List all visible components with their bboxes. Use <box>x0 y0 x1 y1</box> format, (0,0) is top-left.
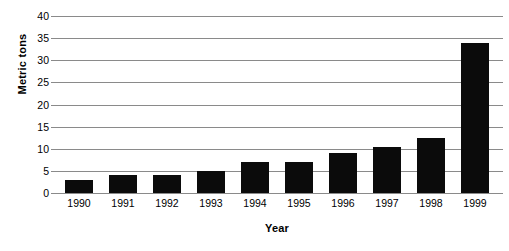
bar-1993 <box>197 171 225 193</box>
x-tick-label-1990: 1990 <box>57 196 101 210</box>
y-tick-label: 40 <box>23 11 49 22</box>
bar-1998 <box>417 138 445 193</box>
y-tick-mark <box>51 193 57 194</box>
plot-area <box>57 16 497 193</box>
bar-1996 <box>329 153 357 193</box>
x-tick-label-1993: 1993 <box>189 196 233 210</box>
y-tick-label: 15 <box>23 122 49 133</box>
y-tick-label: 20 <box>23 100 49 111</box>
y-tick-mark-right <box>497 82 503 83</box>
x-tick-label-1995: 1995 <box>277 196 321 210</box>
bars-group <box>57 16 497 193</box>
gridline <box>57 193 497 194</box>
y-tick-mark-right <box>497 171 503 172</box>
y-tick-mark-right <box>497 60 503 61</box>
y-tick-mark-right <box>497 38 503 39</box>
x-axis-tick-labels: 1990199119921993199419951996199719981999 <box>57 196 497 212</box>
bar-1995 <box>285 162 313 193</box>
bar-1992 <box>153 175 181 193</box>
bar-1994 <box>241 162 269 193</box>
x-axis-title: Year <box>57 222 497 234</box>
bar-1990 <box>65 180 93 193</box>
bar-1999 <box>461 43 489 193</box>
y-tick-label: 0 <box>23 188 49 199</box>
x-tick-label-1994: 1994 <box>233 196 277 210</box>
x-tick-label-1996: 1996 <box>321 196 365 210</box>
x-tick-label-1997: 1997 <box>365 196 409 210</box>
y-tick-mark-right <box>497 193 503 194</box>
x-tick-label-1992: 1992 <box>145 196 189 210</box>
y-tick-label: 35 <box>23 33 49 44</box>
y-tick-mark-right <box>497 127 503 128</box>
bar-chart-figure: Metric tons 0510152025303540 19901991199… <box>0 0 509 251</box>
x-tick-label-1991: 1991 <box>101 196 145 210</box>
bar-1991 <box>109 175 137 193</box>
bar-1997 <box>373 147 401 193</box>
x-tick-label-1999: 1999 <box>453 196 497 210</box>
y-tick-label: 25 <box>23 77 49 88</box>
y-tick-mark-right <box>497 149 503 150</box>
y-tick-mark-right <box>497 16 503 17</box>
y-tick-label: 10 <box>23 144 49 155</box>
y-tick-label: 30 <box>23 55 49 66</box>
x-tick-label-1998: 1998 <box>409 196 453 210</box>
y-tick-mark-right <box>497 105 503 106</box>
y-tick-label: 5 <box>23 166 49 177</box>
